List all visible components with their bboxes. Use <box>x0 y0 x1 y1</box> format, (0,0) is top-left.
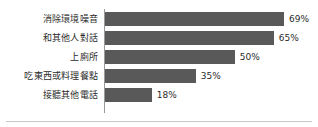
bar-fill <box>105 12 284 26</box>
bar-value-label: 18% <box>157 90 177 101</box>
bar-chart-figure: 消除環境噪音 69% 和其他人對話 65% 上廁所 50% <box>0 0 318 127</box>
category-label: 接聽其他電話 <box>0 90 98 101</box>
bar-track: 50% <box>105 50 260 64</box>
bar-fill <box>105 50 235 64</box>
plot-area: 消除環境噪音 69% 和其他人對話 65% 上廁所 50% <box>0 0 318 118</box>
bar-track: 18% <box>105 88 177 102</box>
bar-fill <box>105 31 274 45</box>
bar-fill <box>105 88 152 102</box>
bar-row: 上廁所 50% <box>0 48 318 67</box>
category-label: 消除環境噪音 <box>0 14 98 25</box>
bar-track: 69% <box>105 12 309 26</box>
bar-row: 和其他人對話 65% <box>0 29 318 48</box>
bar-series: 消除環境噪音 69% 和其他人對話 65% 上廁所 50% <box>0 10 318 105</box>
bar-row: 消除環境噪音 69% <box>0 10 318 29</box>
bar-track: 35% <box>105 69 221 83</box>
category-label: 上廁所 <box>0 52 98 63</box>
bar-fill <box>105 69 196 83</box>
bar-value-label: 69% <box>289 14 309 25</box>
bar-row: 接聽其他電話 18% <box>0 86 318 105</box>
bar-row: 吃東西或料理餐點 35% <box>0 67 318 86</box>
category-label: 和其他人對話 <box>0 33 98 44</box>
bar-value-label: 50% <box>240 52 260 63</box>
bar-value-label: 65% <box>279 33 299 44</box>
figure-bottom-rule <box>6 121 312 122</box>
bar-value-label: 35% <box>201 71 221 82</box>
category-label: 吃東西或料理餐點 <box>0 71 98 82</box>
bar-track: 65% <box>105 31 299 45</box>
